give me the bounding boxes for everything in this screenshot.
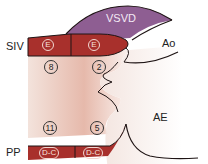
anatomy-diagram	[0, 0, 208, 164]
label-pp: PP	[6, 147, 21, 158]
label-ae: AE	[153, 112, 168, 123]
label-vsvd: VSVD	[106, 13, 136, 24]
segment-dc-left: D-C	[39, 147, 59, 159]
label-siv: SIV	[6, 41, 24, 52]
segment-dc-right: D-C	[83, 147, 103, 159]
number-8: 8	[44, 60, 58, 74]
segment-e-left: E	[42, 39, 54, 51]
number-11: 11	[43, 121, 57, 135]
number-2: 2	[92, 60, 106, 74]
label-ao: Ao	[162, 38, 175, 49]
number-5: 5	[90, 121, 104, 135]
segment-e-right: E	[88, 39, 100, 51]
